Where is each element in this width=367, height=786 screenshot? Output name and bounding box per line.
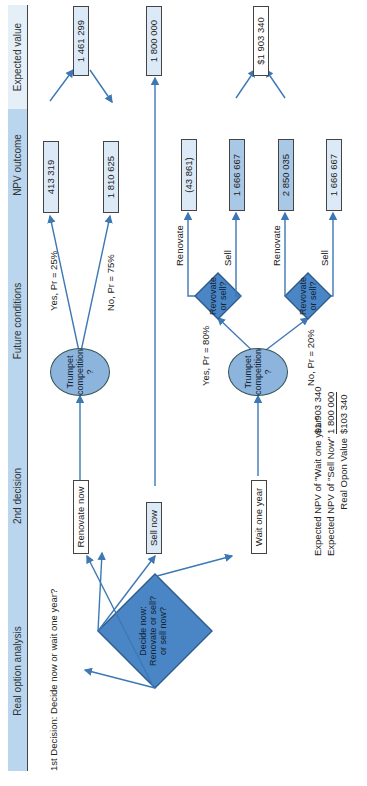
npv-wait-yes-renovate: (43 861) xyxy=(181,139,197,211)
summary-label-1: Expected NPV of "Sell Now" xyxy=(325,438,336,556)
summary-value-2: $103 340 xyxy=(338,394,349,434)
label-sell-1: Sell xyxy=(222,250,233,266)
summary-label-0: Expected NPV of "Wait one year" xyxy=(312,438,323,556)
ev-renovate-now: 1 461 299 xyxy=(73,6,89,76)
npv-renovate-no: 1 810 625 xyxy=(103,141,119,213)
wait-yes-diamond-text: Revovate or sell? xyxy=(208,268,228,324)
npv-wait-no-renovate: 2 850 035 xyxy=(278,139,294,211)
summary-label-2: Real Opon Value xyxy=(338,438,349,556)
chance-node-wait: Trumpet competition ? xyxy=(228,348,288,396)
label-renovate-2: Renovate xyxy=(271,225,282,266)
npv-renovate-yes: 413 319 xyxy=(43,141,59,213)
wait-yes-prob: Yes, Pr = 80% xyxy=(200,326,211,386)
summary-value-1: 1 800 000 xyxy=(325,392,337,434)
label-sell-2: Sell xyxy=(319,250,330,266)
renovate-yes-prob: Yes, Pr = 25% xyxy=(48,251,59,311)
npv-wait-yes-sell: 1 666 667 xyxy=(229,139,245,211)
label-renovate-1: Renovate xyxy=(174,225,185,266)
ev-wait-one-year: $1 903 340 xyxy=(253,6,269,76)
renovate-no-prob: No, Pr = 75% xyxy=(105,254,116,311)
renovate-now-box: Renovate now xyxy=(73,480,89,554)
ev-sell-now: 1 800 000 xyxy=(146,6,162,76)
npv-wait-no-sell: 1 666 667 xyxy=(326,139,342,211)
wait-one-year-box: Wait one year xyxy=(251,480,267,554)
wait-no-prob: No, Pr = 20% xyxy=(305,329,316,386)
chance-node-renovate: Trumpet competition ? xyxy=(50,348,110,396)
summary-value-0: $1 903 340 xyxy=(312,386,323,434)
root-decision-text: Decide now: Renovate or sell? or sell no… xyxy=(138,586,168,676)
wait-no-diamond-text: Revovate or sell? xyxy=(298,268,318,324)
decision-tree-diagram: Real option analysis 2nd decision Future… xyxy=(0,0,367,786)
sell-now-box: Sell now xyxy=(146,502,162,554)
